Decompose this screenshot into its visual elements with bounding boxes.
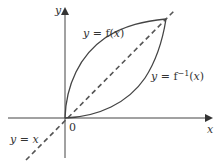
identity-line-label: y = x bbox=[9, 133, 39, 146]
origin-label: 0 bbox=[69, 121, 76, 134]
f-curve-label: y = f(x) bbox=[82, 27, 124, 40]
y-axis-label: y bbox=[54, 4, 62, 17]
x-axis-label: x bbox=[207, 123, 214, 136]
f-inverse-curve-label: y = f−1(x) bbox=[150, 69, 204, 83]
diagram-canvas: y x 0 y = f(x) y = f−1(x) y = x bbox=[0, 0, 215, 165]
